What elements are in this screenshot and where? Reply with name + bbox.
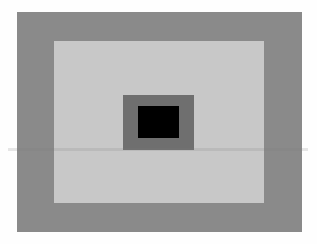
scan-artifact-line <box>8 148 308 151</box>
core-rect <box>138 106 179 138</box>
